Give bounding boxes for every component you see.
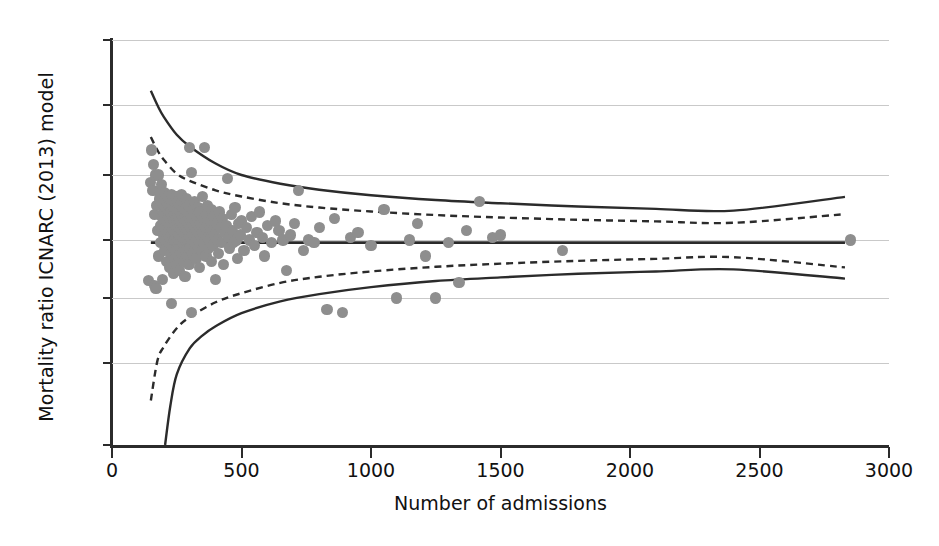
- control-limit-curve: [151, 91, 845, 211]
- scatter-point: [285, 229, 296, 240]
- scatter-point: [420, 250, 431, 261]
- x-axis-tick-label: 1500: [461, 461, 541, 480]
- scatter-point: [186, 167, 197, 178]
- x-axis-title: Number of admissions: [112, 492, 889, 514]
- control-limit-curve: [165, 269, 845, 445]
- x-axis-tick-label: 0: [72, 461, 152, 480]
- scatter-point: [259, 250, 270, 261]
- x-axis-tick-label: 2000: [590, 461, 670, 480]
- x-axis-tick-label: 2500: [720, 461, 800, 480]
- scatter-point: [157, 274, 168, 285]
- scatter-point: [474, 196, 485, 207]
- x-axis-tick-label: 1000: [331, 461, 411, 480]
- y-axis-tick: [103, 239, 112, 241]
- scatter-point: [495, 229, 506, 240]
- scatter-point: [229, 202, 240, 213]
- y-axis-tick: [103, 444, 112, 446]
- x-axis-tick: [370, 447, 372, 458]
- scatter-point: [391, 292, 402, 303]
- scatter-point: [378, 204, 389, 215]
- x-axis-tick: [111, 447, 113, 458]
- x-axis-tick-label: 3000: [849, 461, 929, 480]
- x-axis-tick-label: 500: [202, 461, 282, 480]
- x-axis-tick: [241, 447, 243, 458]
- funnel-plot-figure: Mortality ratio ICNARC (2013) model Numb…: [0, 0, 939, 546]
- scatter-point: [266, 237, 277, 248]
- scatter-point: [238, 245, 249, 256]
- y-axis-tick: [103, 297, 112, 299]
- scatter-point: [845, 234, 856, 245]
- y-axis-title: Mortality ratio ICNARC (2013) model: [35, 27, 57, 467]
- scatter-point: [308, 237, 319, 248]
- scatter-point: [352, 227, 363, 238]
- scatter-point: [321, 304, 332, 315]
- scatter-point: [453, 277, 464, 288]
- scatter-point: [194, 262, 205, 273]
- y-axis-tick: [103, 362, 112, 364]
- x-axis-tick: [759, 447, 761, 458]
- x-axis-tick: [629, 447, 631, 458]
- y-axis-tick: [103, 104, 112, 106]
- scatter-point: [430, 292, 441, 303]
- scatter-point: [179, 271, 190, 282]
- scatter-point: [404, 234, 415, 245]
- scatter-point: [254, 206, 265, 217]
- plot-area: 2.01.61.31.00.80.60.5: [112, 40, 889, 445]
- y-axis-tick: [103, 39, 112, 41]
- x-axis-tick: [500, 447, 502, 458]
- scatter-point: [365, 240, 376, 251]
- y-axis-tick: [103, 174, 112, 176]
- x-axis-tick: [888, 447, 890, 458]
- scatter-point: [146, 144, 157, 155]
- scatter-point: [412, 218, 423, 229]
- x-tick-layer: 050010001500200025003000: [112, 447, 889, 492]
- scatter-point: [210, 274, 221, 285]
- scatter-point: [289, 218, 300, 229]
